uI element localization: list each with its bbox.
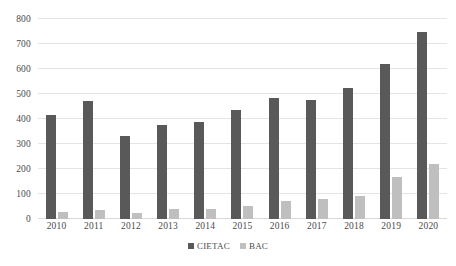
- bar-bac-2015: [243, 206, 253, 219]
- y-tick-label-300: 300: [16, 139, 31, 149]
- bar-group-2019: [373, 19, 410, 219]
- x-tick-label-2019: 2019: [381, 221, 401, 231]
- bar-cietac-2012: [120, 136, 130, 219]
- legend-entry-bac[interactable]: BAC: [240, 241, 268, 251]
- legend-swatch-icon-cietac: [188, 243, 194, 249]
- y-tick-label-600: 600: [16, 64, 31, 74]
- y-axis: 0100200300400500600700800: [0, 0, 38, 238]
- y-tick-label-500: 500: [16, 89, 31, 99]
- x-tick-label-2017: 2017: [307, 221, 327, 231]
- bar-group-2014: [187, 19, 224, 219]
- bar-bac-2018: [355, 196, 365, 220]
- bar-chart: 0100200300400500600700800 20102011201220…: [0, 0, 456, 266]
- bar-group-2015: [224, 19, 261, 219]
- legend-swatch-icon-bac: [240, 243, 246, 249]
- bar-cietac-2011: [83, 101, 93, 219]
- x-tick-label-2015: 2015: [233, 221, 253, 231]
- bar-cietac-2010: [46, 115, 56, 220]
- bar-cietac-2015: [231, 110, 241, 219]
- x-tick-label-2018: 2018: [344, 221, 364, 231]
- bar-bac-2011: [95, 210, 105, 220]
- bar-bac-2019: [392, 177, 402, 219]
- bar-group-2017: [298, 19, 335, 219]
- bar-group-2013: [150, 19, 187, 219]
- bar-cietac-2019: [380, 64, 390, 220]
- y-tick-label-700: 700: [16, 39, 31, 49]
- y-tick-label-0: 0: [26, 214, 31, 224]
- y-tick-label-400: 400: [16, 114, 31, 124]
- bar-group-2018: [335, 19, 372, 219]
- bar-group-2011: [75, 19, 112, 219]
- bar-group-2012: [112, 19, 149, 219]
- bar-bac-2017: [318, 199, 328, 220]
- legend-label-cietac: CIETAC: [197, 241, 230, 251]
- bar-group-2020: [410, 19, 447, 219]
- x-tick-label-2013: 2013: [158, 221, 178, 231]
- x-tick-label-2016: 2016: [270, 221, 290, 231]
- legend-entry-cietac[interactable]: CIETAC: [188, 241, 230, 251]
- bar-bac-2016: [281, 201, 291, 219]
- bar-bac-2010: [58, 212, 68, 219]
- x-tick-label-2010: 2010: [47, 221, 67, 231]
- chart-legend: CIETACBAC: [0, 241, 456, 251]
- legend-label-bac: BAC: [249, 241, 268, 251]
- x-tick-label-2014: 2014: [195, 221, 215, 231]
- bar-group-2016: [261, 19, 298, 219]
- x-tick-label-2012: 2012: [121, 221, 141, 231]
- bar-bac-2014: [206, 209, 216, 220]
- bar-bac-2012: [132, 213, 142, 219]
- bar-cietac-2013: [157, 125, 167, 219]
- bar-cietac-2017: [306, 100, 316, 220]
- bar-cietac-2018: [343, 88, 353, 220]
- x-tick-label-2011: 2011: [84, 221, 103, 231]
- bar-bac-2013: [169, 209, 179, 220]
- bar-cietac-2016: [269, 98, 279, 219]
- bar-bac-2020: [429, 164, 439, 219]
- bar-cietac-2020: [417, 32, 427, 220]
- y-tick-label-200: 200: [16, 164, 31, 174]
- y-tick-label-800: 800: [16, 14, 31, 24]
- x-tick-label-2020: 2020: [419, 221, 439, 231]
- bar-cietac-2014: [194, 122, 204, 219]
- y-tick-label-100: 100: [16, 189, 31, 199]
- plot-bars: [38, 19, 447, 219]
- x-axis: 2010201120122013201420152016201720182019…: [38, 221, 447, 237]
- bar-group-2010: [38, 19, 75, 219]
